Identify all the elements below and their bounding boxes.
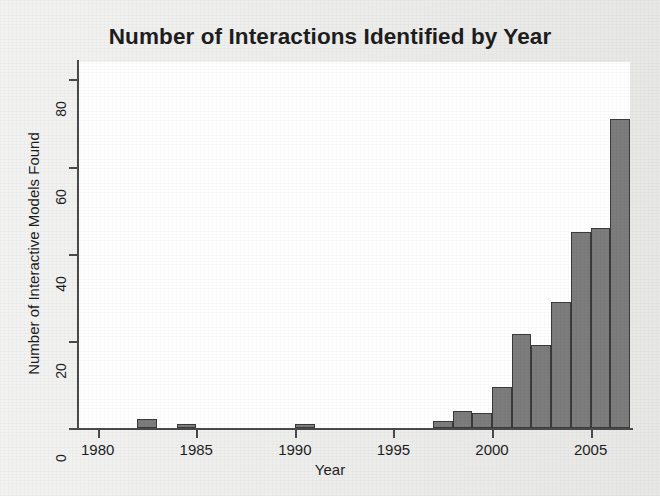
bar	[571, 232, 591, 428]
y-tick-label: 80	[53, 79, 69, 139]
bar	[453, 411, 473, 428]
y-tick-label: 40	[53, 254, 69, 314]
x-tick-label: 2000	[475, 441, 508, 458]
y-tick-label: 0	[53, 428, 69, 488]
y-tick-mark	[69, 254, 78, 256]
x-tick-label: 1995	[377, 441, 410, 458]
y-axis-line	[77, 60, 79, 429]
x-axis-line	[77, 428, 633, 430]
bar-series	[78, 62, 630, 428]
bar	[492, 387, 512, 428]
chart-figure: Number of Interactions Identified by Yea…	[0, 0, 660, 496]
x-tick-label: 1980	[81, 441, 114, 458]
bar	[610, 119, 630, 428]
y-tick-label: 20	[53, 341, 69, 401]
bar	[551, 302, 571, 428]
chart-title: Number of Interactions Identified by Yea…	[0, 24, 660, 50]
x-tick-mark	[98, 429, 100, 438]
y-tick-mark	[69, 428, 78, 430]
y-axis-title: Number of Interactive Models Found	[25, 104, 42, 404]
y-tick-mark	[69, 79, 78, 81]
bar	[512, 334, 532, 428]
bar	[137, 419, 157, 428]
bar	[591, 228, 611, 428]
x-tick-mark	[393, 429, 395, 438]
x-axis-title: Year	[0, 461, 660, 478]
x-tick-label: 1985	[180, 441, 213, 458]
x-tick-mark	[295, 429, 297, 438]
y-tick-label: 60	[53, 167, 69, 227]
x-tick-mark	[492, 429, 494, 438]
plot-area	[78, 62, 630, 428]
y-tick-mark	[69, 341, 78, 343]
y-tick-mark	[69, 167, 78, 169]
bar	[531, 345, 551, 428]
bar	[472, 413, 492, 428]
x-tick-mark	[591, 429, 593, 438]
x-tick-mark	[196, 429, 198, 438]
x-tick-label: 2005	[574, 441, 607, 458]
x-tick-label: 1990	[278, 441, 311, 458]
